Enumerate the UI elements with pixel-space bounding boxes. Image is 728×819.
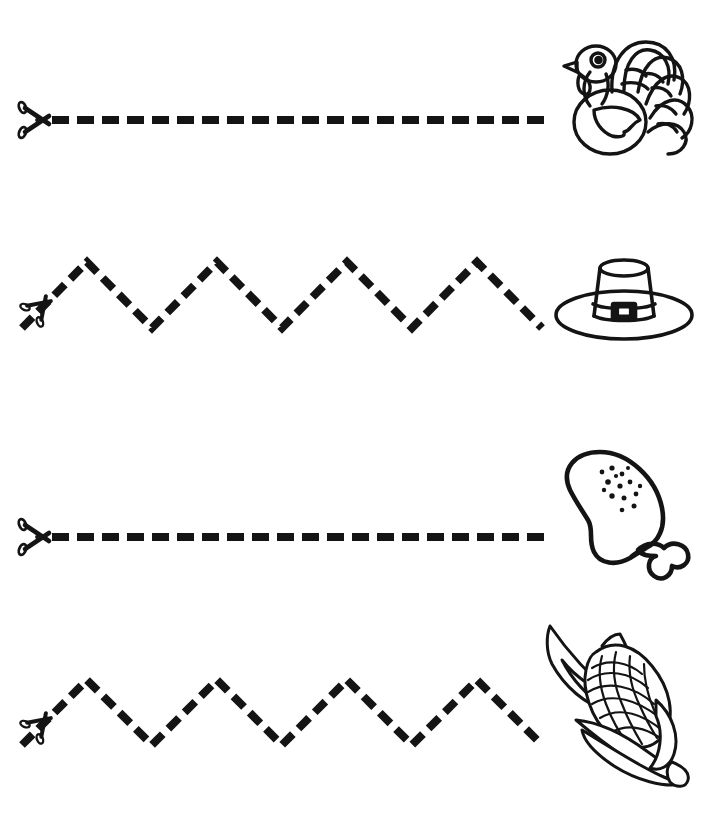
worksheet-page <box>0 0 728 819</box>
corn-illustration <box>524 612 704 792</box>
cutting-row-3 <box>0 410 728 610</box>
drumstick-illustration <box>550 446 698 582</box>
dashed-cut-line <box>22 262 542 328</box>
cutting-row-1 <box>0 0 728 200</box>
cutting-row-2 <box>0 200 728 400</box>
turkey-illustration <box>550 26 698 166</box>
pilgrim-hat-illustration <box>550 250 698 346</box>
cutting-row-4 <box>0 600 728 819</box>
dashed-cut-line <box>22 680 542 745</box>
scissors-icon <box>17 518 49 556</box>
scissors-icon <box>17 101 49 139</box>
